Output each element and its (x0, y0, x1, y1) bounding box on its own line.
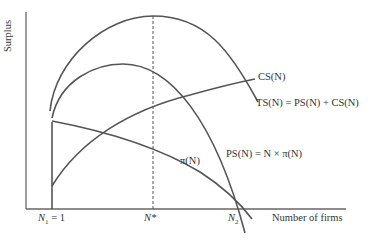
nstar-tick-label: N* (144, 212, 156, 223)
y-axis-label: Surplus (2, 12, 16, 52)
surplus-diagram (0, 0, 375, 247)
n1-tick-label: N1 = 1 (38, 212, 65, 226)
cs-label: CS(N) (258, 71, 285, 82)
pi-label: π(N) (180, 155, 200, 166)
pi-curve (52, 121, 252, 219)
ts-curve (50, 16, 258, 111)
x-axis-label: Number of firms (272, 212, 343, 223)
ps-label: PS(N) = N × π(N) (226, 148, 302, 159)
ps-curve (52, 64, 245, 233)
n2-tick-label: N2 (228, 212, 239, 226)
ts-label: TS(N) = PS(N) + CS(N) (256, 97, 359, 108)
